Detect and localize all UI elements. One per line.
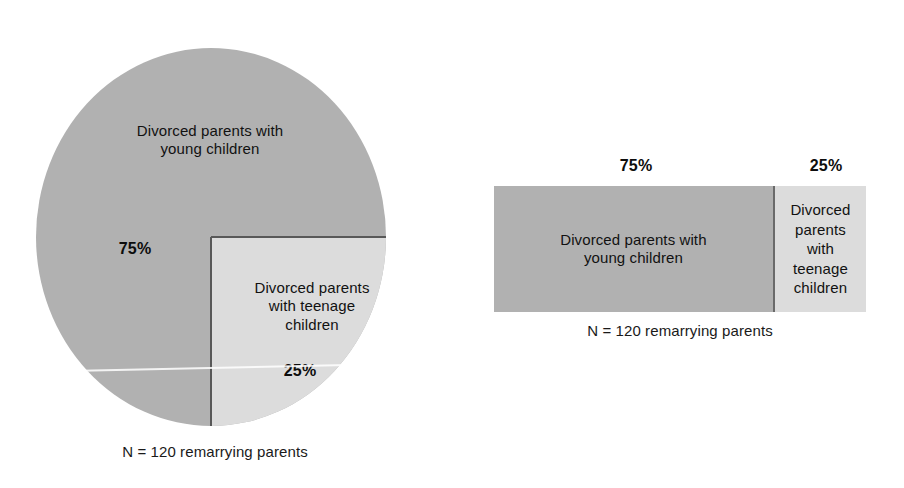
bar-segment-teenage-children: Divorced parents with teenage children (775, 186, 866, 312)
bar-chart-graphic: Divorced parents with young children Div… (494, 186, 866, 312)
bar-chart-panel: 75% 25% Divorced parents with young chil… (0, 0, 904, 488)
bar-percent-label-young-children: 75% (598, 157, 674, 175)
bar-segment-label-teenage-children: Divorced parents with teenage children (790, 200, 850, 298)
figure-root: Divorced parents with young children 75%… (0, 0, 904, 488)
bar-percent-label-teenage-children: 25% (788, 157, 864, 175)
bar-chart-caption: N = 120 remarrying parents (530, 322, 830, 339)
bar-segment-young-children: Divorced parents with young children (494, 186, 775, 312)
bar-segment-label-young-children: Divorced parents with young children (560, 231, 706, 268)
